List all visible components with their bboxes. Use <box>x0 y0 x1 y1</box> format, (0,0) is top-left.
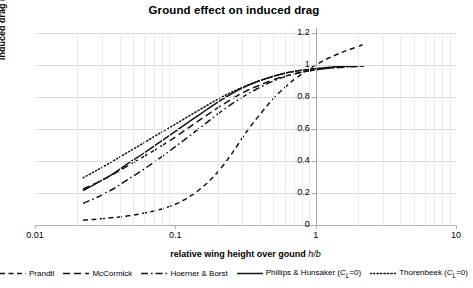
legend-label-3: Phillips & Hunsaker (CL=0) <box>266 268 361 279</box>
legend-swatch-dash-dot <box>141 270 167 277</box>
x-minor-gridline <box>242 33 243 225</box>
x-tick-label: 10 <box>436 230 473 240</box>
legend-item-0[interactable]: Prandtl <box>0 269 54 278</box>
legend-label-1: McCormick <box>92 269 132 278</box>
legend: PrandtlMcCormickHoerner & BorstPhillips … <box>0 268 468 279</box>
x-axis-line <box>35 225 456 226</box>
y-tick-mark <box>312 161 316 162</box>
y-tick-mark <box>312 129 316 130</box>
y-tick-mark <box>312 97 316 98</box>
x-minor-gridline <box>450 33 451 225</box>
x-tick-mark <box>456 225 457 229</box>
x-minor-gridline <box>120 33 121 225</box>
series-line-1 <box>83 66 364 189</box>
legend-item-3[interactable]: Phillips & Hunsaker (CL=0) <box>237 268 361 279</box>
x-minor-gridline <box>154 33 155 225</box>
y-axis-label: induced drag ratio CDi/CDi∞ <box>0 0 9 60</box>
legend-item-2[interactable]: Hoerner & Borst <box>141 269 227 278</box>
legend-swatch-solid <box>237 270 263 277</box>
x-minor-gridline <box>434 33 435 225</box>
x-minor-gridline <box>358 33 359 225</box>
x-minor-gridline <box>273 33 274 225</box>
legend-swatch-long-dashed <box>63 270 89 277</box>
legend-item-4[interactable]: Thorenbeek (CL=0) <box>370 268 468 279</box>
y-tick-label: 0 <box>276 219 310 229</box>
y-tick-label: 0.4 <box>276 155 310 165</box>
y-tick-label: 0.8 <box>276 91 310 101</box>
x-axis-label-symbol: h/b <box>308 249 321 259</box>
x-minor-gridline <box>414 33 415 225</box>
y-gridline <box>35 33 456 34</box>
x-tick-mark <box>316 225 317 229</box>
x-tick-label: 0.01 <box>15 230 55 240</box>
y-tick-label: 0.2 <box>276 187 310 197</box>
y-tick-label: 0.6 <box>276 123 310 133</box>
x-minor-gridline <box>218 33 219 225</box>
x-tick-label: 1 <box>296 230 336 240</box>
chart-title: Ground effect on induced drag <box>0 4 468 16</box>
x-minor-gridline <box>102 33 103 225</box>
x-tick-mark <box>175 225 176 229</box>
x-minor-gridline <box>162 33 163 225</box>
legend-swatch-dotted <box>370 270 396 277</box>
plot-area: 00.20.40.60.811.20.010.1110 <box>35 33 456 225</box>
y-gridline <box>35 97 456 98</box>
x-axis-label-text: relative wing height over gound <box>170 249 306 259</box>
y-tick-mark <box>312 193 316 194</box>
y-tick-label: 1 <box>276 59 310 69</box>
x-axis-label: relative wing height over gound h/b <box>35 249 456 259</box>
legend-label-2: Hoerner & Borst <box>170 269 227 278</box>
legend-item-1[interactable]: McCormick <box>63 269 132 278</box>
y-gridline <box>35 65 456 66</box>
x-tick-mark <box>35 225 36 229</box>
legend-swatch-dashed <box>0 270 26 277</box>
x-minor-gridline <box>144 33 145 225</box>
x-minor-gridline <box>133 33 134 225</box>
y-gridline <box>35 161 456 162</box>
x-minor-gridline <box>383 33 384 225</box>
y-axis-label-text: induced drag ratio <box>0 0 7 60</box>
x-minor-gridline <box>425 33 426 225</box>
x-minor-gridline <box>169 33 170 225</box>
y-tick-mark <box>312 65 316 66</box>
x-minor-gridline <box>77 33 78 225</box>
y-tick-label: 1.2 <box>276 27 310 37</box>
series-line-2 <box>83 66 364 204</box>
y-gridline <box>35 129 456 130</box>
x-tick-label: 0.1 <box>155 230 195 240</box>
y-gridline <box>35 193 456 194</box>
x-minor-gridline <box>400 33 401 225</box>
legend-label-0: Prandtl <box>29 269 54 278</box>
x-minor-gridline <box>442 33 443 225</box>
legend-label-4: Thorenbeek (CL=0) <box>399 268 468 279</box>
y-axis-line <box>316 28 317 226</box>
y-tick-mark <box>312 33 316 34</box>
x-minor-gridline <box>260 33 261 225</box>
